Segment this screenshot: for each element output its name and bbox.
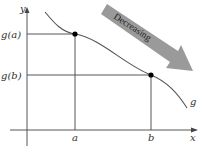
decreasing-function-diagram: Decreasing y x g(a) g(b) a b g [0, 0, 203, 151]
y-tick-gb: g(b) [1, 70, 22, 81]
decreasing-arrow: Decreasing [101, 4, 193, 71]
guide-lines [27, 34, 151, 130]
x-axis-label: x [190, 132, 196, 143]
point-b-gb [148, 72, 153, 77]
x-tick-a: a [72, 132, 78, 143]
function-label-g: g [190, 96, 196, 107]
axes [10, 9, 196, 146]
x-tick-b: b [148, 132, 154, 143]
axis-arrowheads [25, 7, 199, 133]
point-a-ga [72, 31, 77, 36]
y-tick-ga: g(a) [1, 29, 21, 40]
y-axis-label: y [19, 3, 26, 14]
arrow-label: Decreasing [112, 11, 153, 43]
function-curve-g [45, 12, 187, 108]
